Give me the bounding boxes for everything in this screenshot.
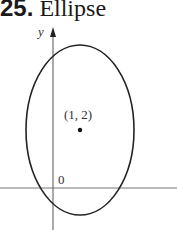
ellipse-figure: y 0 (1, 2) — [0, 0, 177, 230]
origin-label: 0 — [58, 172, 65, 187]
center-point — [78, 128, 82, 132]
center-label: (1, 2) — [64, 107, 92, 122]
y-axis-label: y — [36, 24, 44, 39]
y-axis-arrow-icon — [50, 27, 56, 37]
